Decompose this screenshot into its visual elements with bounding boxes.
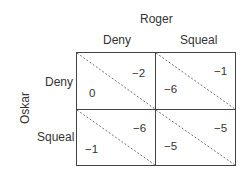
cell-deny-squeal: −1 −6 <box>155 52 236 110</box>
col-strategy-deny: Deny <box>103 33 131 47</box>
oskar-payoff: −1 <box>85 143 98 155</box>
row-strategy-squeal: Squeal <box>37 130 74 144</box>
diagonal-divider <box>156 110 235 165</box>
cell-squeal-deny: −6 −1 <box>76 109 156 166</box>
cell-squeal-squeal: −5 −5 <box>155 109 236 166</box>
col-strategy-squeal: Squeal <box>180 33 217 47</box>
oskar-payoff: −6 <box>164 83 177 95</box>
payoff-matrix: −2 0 −1 −6 −6 −1 −5 −5 <box>76 52 236 166</box>
cell-deny-deny: −2 0 <box>76 52 156 110</box>
diagonal-divider <box>77 53 155 109</box>
oskar-payoff: 0 <box>89 87 95 99</box>
diagonal-divider <box>77 110 155 165</box>
row-player-label: Oskar <box>18 92 32 124</box>
oskar-payoff: −5 <box>164 140 177 152</box>
row-strategy-deny: Deny <box>45 75 73 89</box>
roger-payoff: −2 <box>132 67 145 79</box>
diagonal-divider <box>156 53 235 109</box>
column-player-label: Roger <box>140 12 173 26</box>
roger-payoff: −5 <box>214 122 227 134</box>
roger-payoff: −1 <box>214 65 227 77</box>
roger-payoff: −6 <box>133 122 146 134</box>
